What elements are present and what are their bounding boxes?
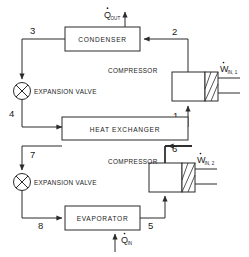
condenser-block: CONDENSER — [65, 27, 140, 51]
w-in-2-subscript: IN, 2 — [205, 161, 215, 166]
w-in-2-label: W IN, 2 — [197, 153, 215, 166]
line-state-6-route — [165, 146, 192, 163]
line-state-7 — [22, 146, 62, 170]
evaporator-block: EVAPORATOR — [65, 206, 140, 230]
heat-exchanger-label: HEAT EXCHANGER — [90, 126, 160, 133]
expansion-valve-1-symbol — [14, 83, 31, 100]
w-in-1-label: W IN, 1 — [220, 62, 238, 75]
q-out-label: Q OUT — [104, 7, 120, 21]
state-3-number: 3 — [30, 25, 35, 36]
state-4-number: 4 — [9, 108, 14, 119]
expansion-valve-1-label: EXPANSION VALVE — [34, 88, 97, 95]
diagram-canvas: Q OUT CONDENSER 2 3 EXPANSION VALVE 4 — [0, 0, 249, 257]
line-state-5 — [140, 196, 165, 218]
condenser-label: CONDENSER — [78, 36, 126, 43]
w-in-1-subscript: IN, 1 — [228, 70, 238, 75]
line-state-3 — [22, 39, 65, 79]
compressor-2-block — [149, 163, 217, 192]
heat-exchanger-block: HEAT EXCHANGER — [62, 117, 188, 140]
compressor-1-label: COMPRESSOR — [108, 67, 158, 74]
compressor-1-block — [172, 72, 240, 101]
state-5-number: 5 — [148, 220, 153, 231]
line-state-8 — [22, 191, 62, 219]
state-6-number: 6 — [172, 143, 177, 154]
line-state-6 — [165, 146, 192, 163]
compressor-2-label: COMPRESSOR — [108, 158, 158, 165]
q-in-subscript: IN — [128, 241, 133, 246]
line-state-4 — [22, 100, 62, 128]
expansion-valve-2-symbol — [14, 174, 31, 191]
state-2-number: 2 — [172, 26, 177, 37]
q-in-label: Q IN — [121, 233, 132, 246]
expansion-valve-2-label: EXPANSION VALVE — [34, 179, 97, 186]
q-out-subscript: OUT — [111, 16, 121, 21]
state-8-number: 8 — [38, 220, 43, 231]
refrigeration-cycle-diagram: Q OUT CONDENSER 2 3 EXPANSION VALVE 4 — [0, 0, 249, 257]
evaporator-label: EVAPORATOR — [77, 215, 129, 222]
state-7-number: 7 — [30, 149, 35, 160]
